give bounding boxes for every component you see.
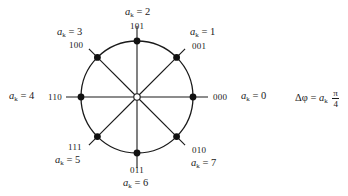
- constellation-point-7: [173, 133, 180, 140]
- ak-subscript: k: [195, 31, 199, 39]
- code-label-1: 001: [192, 42, 206, 51]
- ak-value: 6: [143, 177, 148, 188]
- ak-subscript: k: [14, 95, 18, 103]
- ak-value: 2: [145, 6, 150, 17]
- ak-equals: =: [20, 90, 26, 101]
- code-label-3: 100: [69, 41, 83, 50]
- code-label-4: 110: [48, 93, 62, 102]
- ak-equals: =: [202, 157, 208, 168]
- formula-lhs: Δφ: [295, 92, 308, 103]
- ak-equals: =: [136, 6, 142, 17]
- formula-fraction: π 4: [332, 88, 339, 109]
- formula-numerator: π: [332, 88, 339, 99]
- ak-subscript: k: [196, 162, 200, 170]
- ak-value: 1: [210, 26, 215, 37]
- ak-label-7: ak = 7: [191, 158, 216, 170]
- ak-equals: =: [68, 26, 74, 37]
- ak-equals: =: [134, 177, 140, 188]
- ak-label-6: ak = 6: [123, 178, 148, 190]
- code-label-0: 000: [213, 93, 227, 102]
- formula-denominator: 4: [332, 99, 339, 109]
- ak-label-5: ak = 5: [55, 155, 80, 167]
- ak-value: 7: [211, 157, 216, 168]
- constellation-point-5: [94, 133, 101, 140]
- ak-subscript: k: [60, 159, 64, 167]
- constellation-point-2: [134, 38, 141, 45]
- ak-subscript: k: [128, 182, 132, 190]
- formula-rhs-subscript: k: [324, 97, 328, 105]
- code-label-2: 101: [130, 22, 144, 31]
- ak-value: 0: [261, 90, 266, 101]
- constellation-point-1: [173, 54, 180, 61]
- ak-subscript: k: [246, 95, 250, 103]
- ak-label-1: ak = 1: [190, 27, 215, 39]
- ak-equals: =: [66, 154, 72, 165]
- code-label-6: 011: [130, 166, 144, 175]
- ak-label-3: ak = 3: [57, 27, 82, 39]
- ak-equals: =: [201, 26, 207, 37]
- constellation-point-0: [190, 94, 197, 101]
- ak-subscript: k: [130, 11, 134, 19]
- ak-value: 4: [29, 90, 34, 101]
- ak-value: 3: [77, 26, 82, 37]
- ak-label-0: ak = 0: [241, 91, 266, 103]
- phase-step-formula: Δφ = ak π 4: [295, 88, 339, 109]
- formula-equals: =: [310, 92, 316, 103]
- constellation-point-3: [94, 54, 101, 61]
- ak-subscript: k: [62, 31, 66, 39]
- constellation-point-6: [134, 150, 141, 157]
- ak-value: 5: [75, 154, 80, 165]
- ak-equals: =: [252, 90, 258, 101]
- psk-constellation-diagram: 000 ak = 0 001 ak = 1 101 ak = 2 100 ak …: [0, 0, 348, 196]
- origin-marker: [134, 94, 140, 100]
- ak-label-2: ak = 2: [125, 7, 150, 19]
- ak-label-4: ak = 4: [9, 91, 34, 103]
- constellation-point-4: [78, 94, 85, 101]
- code-label-7: 010: [192, 146, 206, 155]
- code-label-5: 111: [68, 143, 82, 152]
